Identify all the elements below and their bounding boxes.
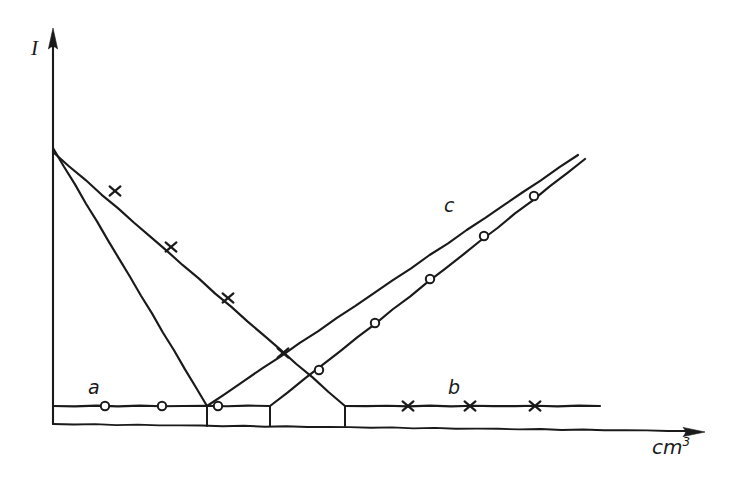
series-line-steep-descending-line: [53, 148, 207, 406]
x-axis-line: [53, 424, 689, 431]
marker-cross-shallow-descending-line-0: [110, 186, 121, 195]
series-line-ascending-line-upper: [207, 155, 578, 406]
marker-circle-ascending-line-lower-0: [315, 366, 323, 374]
x-axis-label-base: cm: [652, 435, 682, 459]
x-axis-label: cm3: [652, 436, 690, 457]
series-line-plateau-b: [345, 406, 600, 407]
x-axis-label-exponent: 3: [682, 435, 690, 449]
curve-label-c: c: [444, 196, 454, 215]
marker-circle-plateau-a-1: [158, 402, 166, 410]
marker-circle-plateau-a-0: [101, 402, 109, 410]
marker-circle-ascending-line-lower-3: [480, 232, 488, 240]
series-line-shallow-descending-line: [53, 152, 345, 406]
marker-cross-shallow-descending-line-1: [166, 242, 177, 251]
titration-figure: I cm3 a b c: [0, 0, 740, 484]
marker-circle-ascending-line-lower-1: [371, 319, 379, 327]
curve-label-b: b: [448, 378, 460, 397]
plot-canvas: [0, 0, 740, 484]
y-axis-label: I: [31, 38, 38, 59]
y-axis-arrow-icon: [48, 28, 57, 49]
marker-circle-plateau-a-2: [214, 402, 222, 410]
marker-circle-ascending-line-lower-2: [426, 275, 434, 283]
marker-circle-ascending-line-lower-4: [530, 192, 538, 200]
curve-label-a: a: [88, 378, 100, 397]
marker-cross-shallow-descending-line-2: [223, 293, 234, 302]
